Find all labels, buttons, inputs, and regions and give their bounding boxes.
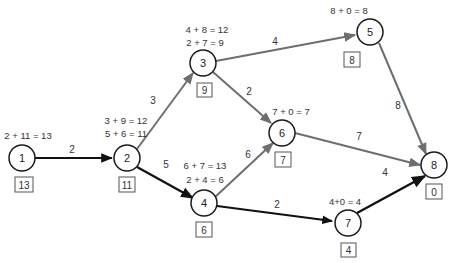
edge-6-8-weight: 7 xyxy=(356,131,362,142)
edge-3-5-weight: 4 xyxy=(272,36,278,47)
node-7-box-value: 4 xyxy=(346,245,352,256)
edge-4-6-weight: 6 xyxy=(245,149,251,160)
edge-2-4-weight: 5 xyxy=(163,159,169,170)
node-6: 7 + 0 = 7 6 7 xyxy=(269,106,310,167)
edge-3-5 xyxy=(216,35,355,61)
node-1: 2 + 11 = 13 1 13 xyxy=(4,130,51,192)
edge-2-4 xyxy=(137,167,193,198)
node-2-calc-2: 5 + 6 = 11 xyxy=(105,128,147,139)
node-2-label: 2 xyxy=(124,152,130,164)
edge-3-6-weight: 2 xyxy=(246,86,252,97)
edge-5-8-weight: 8 xyxy=(395,100,401,111)
node-5-label: 5 xyxy=(367,26,373,38)
edge-7-8 xyxy=(357,176,425,213)
node-6-calc-1: 7 + 0 = 7 xyxy=(272,106,310,117)
node-5-calc-1: 8 + 0 = 8 xyxy=(330,5,368,16)
network-diagram: 2 3 5 4 2 6 2 8 7 4 2 + 11 = 13 1 13 xyxy=(0,0,452,263)
edge-2-3-weight: 3 xyxy=(150,95,156,106)
node-2-box-value: 11 xyxy=(122,180,133,191)
node-3-calc-2: 2 + 7 = 9 xyxy=(186,37,224,48)
node-4-label: 4 xyxy=(201,197,207,209)
edge-4-7-weight: 2 xyxy=(274,199,280,210)
edge-7-8-weight: 4 xyxy=(382,167,388,178)
edge-1-2-weight: 2 xyxy=(69,144,75,155)
node-1-box-value: 13 xyxy=(18,180,30,191)
node-7-label: 7 xyxy=(345,217,351,229)
node-4: 6 + 7 = 13 2 + 4 = 6 4 6 xyxy=(184,160,227,237)
node-2-calc-1: 3 + 9 = 12 xyxy=(105,115,148,126)
node-3-label: 3 xyxy=(200,57,206,69)
node-3-box-value: 9 xyxy=(202,85,208,96)
node-2: 3 + 9 = 12 5 + 6 = 11 2 11 xyxy=(105,115,148,192)
node-4-calc-1: 6 + 7 = 13 xyxy=(184,160,227,171)
node-7-calc-1: 4+0 = 4 xyxy=(329,196,361,207)
node-8-label: 8 xyxy=(431,159,437,171)
nodes-layer: 2 + 11 = 13 1 13 3 + 9 = 12 5 + 6 = 11 2… xyxy=(4,5,447,257)
node-1-label: 1 xyxy=(19,152,25,164)
edges-layer: 2 3 5 4 2 6 2 8 7 4 xyxy=(35,35,426,221)
node-4-box-value: 6 xyxy=(201,225,207,236)
node-8: 8 0 xyxy=(421,152,447,199)
node-7: 4+0 = 4 7 4 xyxy=(329,196,361,257)
node-5: 8 + 0 = 8 5 8 xyxy=(330,5,383,67)
node-6-box-value: 7 xyxy=(280,155,286,166)
node-1-calc-1: 2 + 11 = 13 xyxy=(4,130,51,141)
node-8-box-value: 0 xyxy=(431,187,437,198)
node-3-calc-1: 4 + 8 = 12 xyxy=(186,24,229,35)
edge-5-8 xyxy=(379,43,426,154)
node-5-box-value: 8 xyxy=(349,55,355,66)
edge-3-6 xyxy=(213,72,271,123)
node-4-calc-2: 2 + 4 = 6 xyxy=(186,174,224,185)
node-6-label: 6 xyxy=(279,127,285,139)
